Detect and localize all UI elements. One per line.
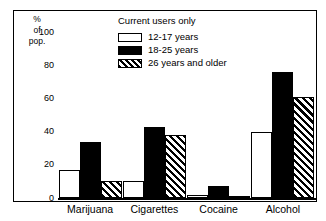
bar-alcohol-series-3 xyxy=(293,97,314,198)
y-axis-tick-100: 100 xyxy=(20,28,54,37)
bar-cocaine-series-2 xyxy=(208,186,229,198)
y-axis-tick-0: 0 xyxy=(20,194,54,203)
y-axis-title-line-1: % xyxy=(20,14,54,25)
bar-cigarettes-series-2 xyxy=(144,127,165,198)
x-axis-line xyxy=(58,198,317,200)
bar-alcohol-series-1 xyxy=(251,132,272,198)
x-axis-label-alcohol: Alcohol xyxy=(237,203,326,215)
bar-cigarettes-series-1 xyxy=(123,181,144,198)
bar-marijuana-series-3 xyxy=(101,181,122,198)
bar-group-alcohol xyxy=(251,16,314,198)
bar-group-marijuana xyxy=(59,16,122,198)
plot-area xyxy=(58,16,315,198)
bar-marijuana-series-1 xyxy=(59,170,80,198)
y-axis-tick-80: 80 xyxy=(20,61,54,70)
bar-alcohol-series-2 xyxy=(272,72,293,198)
y-axis-tick-20: 20 xyxy=(20,160,54,169)
bar-group-cocaine xyxy=(187,16,250,198)
bar-cigarettes-series-3 xyxy=(165,135,186,198)
y-axis-tick-40: 40 xyxy=(20,127,54,136)
bar-group-cigarettes xyxy=(123,16,186,198)
y-axis-tick-60: 60 xyxy=(20,94,54,103)
y-axis-title-line-3: pop. xyxy=(20,36,54,47)
bar-marijuana-series-2 xyxy=(80,142,101,198)
